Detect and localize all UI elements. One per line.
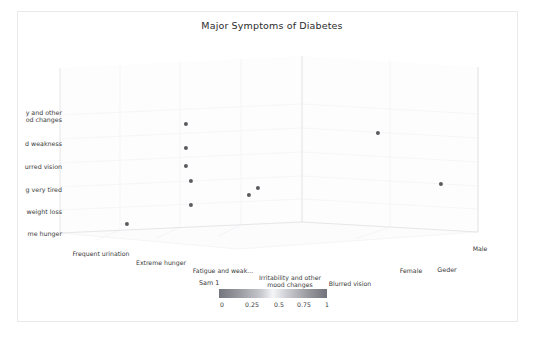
figure-canvas: Major Symptoms of Diabetes <box>0 0 544 341</box>
colorbar-label: Sam 1 <box>199 279 219 287</box>
colorbar-tick-label: 0.75 <box>297 301 311 308</box>
colorbar-tick-label: 1 <box>325 301 329 308</box>
colorbar-gradient[interactable] <box>219 289 327 298</box>
colorbar-tick-label: 0.5 <box>274 301 284 308</box>
colorbar-tick-label: 0 <box>220 301 224 308</box>
colorbar-tick-label: 0.25 <box>245 301 259 308</box>
colorbar-group: Sam 1 0 0.25 0.5 0.75 1 <box>0 0 544 341</box>
